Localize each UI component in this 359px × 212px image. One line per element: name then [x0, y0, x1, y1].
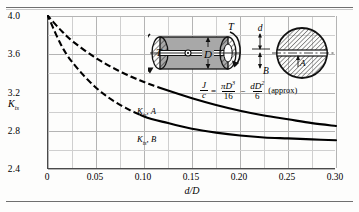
diameter-label: D: [203, 48, 212, 60]
figure-container: 4.0 3.6 3.2 2.8 2.4 0 0.05 0.10 0.15 0.2…: [0, 0, 359, 212]
curve-label-b-suffix: , B: [147, 134, 157, 144]
point-b-marker: B: [258, 52, 269, 76]
x-tick-4: 0.20: [231, 172, 248, 182]
equation-term-1-num: πD3: [219, 80, 237, 91]
slot-depth-label: d: [258, 23, 263, 33]
point-a-label: A: [299, 58, 306, 68]
curve-label-a-suffix: , A: [147, 106, 156, 116]
equation-note: (approx): [268, 86, 297, 95]
equation-lhs: J c: [200, 81, 208, 100]
y-tick-2: 3.2: [8, 88, 20, 98]
shaft-diagram: D T T d: [148, 22, 353, 84]
equation-minus: −: [239, 86, 246, 96]
shaft-diagram-svg: D T T d: [148, 22, 353, 84]
torque-label-right: T: [228, 22, 235, 32]
x-tick-0: 0: [45, 172, 50, 182]
y-tick-4: 2.4: [8, 164, 20, 174]
curve-label-b: Kts, B: [137, 134, 156, 146]
x-tick-1: 0.05: [87, 172, 104, 182]
y-tick-1: 3.6: [8, 49, 20, 59]
point-b-label: B: [263, 66, 269, 76]
y-axis-label-sub: ts: [15, 104, 19, 111]
gridline-y-major: [48, 169, 335, 170]
equation-lhs-den: c: [200, 90, 208, 100]
y-tick-0: 4.0: [8, 11, 20, 21]
curve-label-a: Kts, A: [137, 106, 156, 118]
slot-depth-dimension: d: [252, 23, 270, 50]
section-modulus-equation: J c = πD3 16 − dD2 6 (approx): [200, 80, 297, 101]
equation-term-1-num-base: πD: [221, 81, 232, 91]
equation-term-1-den: 16: [222, 91, 235, 101]
y-axis-label: Kts: [8, 98, 19, 111]
bottom-rule: [6, 201, 353, 202]
x-tick-5: 0.25: [279, 172, 296, 182]
equation-term-2-den: 6: [253, 91, 262, 101]
x-tick-2: 0.10: [135, 172, 152, 182]
equation-term-2: dD2 6: [248, 80, 266, 101]
x-tick-3: 0.15: [183, 172, 200, 182]
cross-section: A: [272, 28, 334, 78]
equation-term-1: πD3 16: [219, 80, 237, 101]
equation-term-2-num-base: dD: [250, 81, 261, 91]
top-rule-secondary: [6, 9, 353, 10]
y-axis-label-text: K: [8, 98, 15, 109]
equation-equals: =: [210, 86, 217, 96]
equation-term-2-exp: 2: [261, 79, 264, 86]
equation-lhs-num: J: [200, 81, 208, 90]
y-tick-3: 2.8: [8, 126, 20, 136]
equation-term-1-exp: 3: [232, 79, 235, 86]
top-rule: [6, 7, 353, 8]
x-tick-6: 0.30: [327, 172, 344, 182]
x-axis-label: d/D: [185, 185, 200, 196]
equation-term-2-num: dD2: [248, 80, 266, 91]
